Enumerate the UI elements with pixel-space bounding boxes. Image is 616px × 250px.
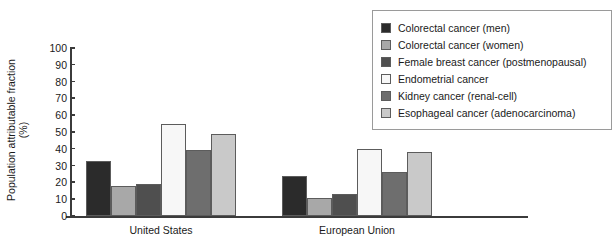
bar xyxy=(307,198,332,216)
legend-item: Female breast cancer (postmenopausal) xyxy=(381,53,607,70)
bar xyxy=(382,172,407,216)
y-tick-mark xyxy=(70,114,75,116)
legend-item: Colorectal cancer (women) xyxy=(381,36,607,53)
y-tick-label: 90 xyxy=(35,59,67,71)
y-tick-label: 30 xyxy=(35,160,67,172)
y-tick-label: 80 xyxy=(35,76,67,88)
y-tick-mark xyxy=(70,131,75,133)
y-tick-label: 70 xyxy=(35,92,67,104)
legend-item: Esophageal cancer (adenocarcinoma) xyxy=(381,104,607,121)
y-tick-mark xyxy=(70,181,75,183)
y-tick-label: 20 xyxy=(35,176,67,188)
legend-label: Colorectal cancer (women) xyxy=(398,39,523,51)
y-tick: 20 xyxy=(28,176,76,188)
x-axis-group-label: United States xyxy=(86,224,236,237)
y-tick-label: 40 xyxy=(35,143,67,155)
bar xyxy=(211,134,236,216)
y-tick: 50 xyxy=(28,126,76,138)
bar xyxy=(407,152,432,216)
y-tick-mark xyxy=(70,215,75,217)
bar xyxy=(282,176,307,216)
legend-swatch xyxy=(381,40,391,50)
y-tick: 0 xyxy=(28,210,76,222)
y-tick: 10 xyxy=(28,193,76,205)
y-tick-mark xyxy=(70,97,75,99)
legend-item: Endometrial cancer xyxy=(381,70,607,87)
bar xyxy=(161,124,186,216)
y-tick-mark xyxy=(70,165,75,167)
y-tick-mark xyxy=(70,47,75,49)
y-tick-label: 100 xyxy=(35,42,67,54)
y-tick-mark xyxy=(70,81,75,83)
legend-swatch xyxy=(381,91,391,101)
x-axis-line xyxy=(66,216,528,218)
legend-box: Colorectal cancer (men)Colorectal cancer… xyxy=(372,10,612,130)
legend-item: Kidney cancer (renal-cell) xyxy=(381,87,607,104)
y-axis-title-line1: Population attributable fraction xyxy=(5,59,17,201)
legend-label: Endometrial cancer xyxy=(398,73,488,85)
y-tick-mark xyxy=(70,198,75,200)
legend-label: Female breast cancer (postmenopausal) xyxy=(398,56,587,68)
legend-items: Colorectal cancer (men)Colorectal cancer… xyxy=(381,19,607,121)
y-tick: 70 xyxy=(28,92,76,104)
bar xyxy=(111,186,136,216)
y-tick: 80 xyxy=(28,76,76,88)
legend-label: Esophageal cancer (adenocarcinoma) xyxy=(398,107,575,119)
y-tick: 30 xyxy=(28,160,76,172)
legend-label: Colorectal cancer (men) xyxy=(398,22,510,34)
bar xyxy=(86,161,111,216)
y-tick-mark xyxy=(70,148,75,150)
y-tick-mark xyxy=(70,64,75,66)
legend-swatch xyxy=(381,74,391,84)
legend-swatch xyxy=(381,23,391,33)
bar-chart-figure: Population attributable fraction (%) 010… xyxy=(0,0,616,250)
legend-swatch xyxy=(381,57,391,67)
y-tick: 90 xyxy=(28,59,76,71)
y-tick: 60 xyxy=(28,109,76,121)
bar xyxy=(357,149,382,216)
x-axis-group-label: European Union xyxy=(282,224,432,237)
y-tick-label: 0 xyxy=(35,210,67,222)
bar xyxy=(136,184,161,216)
bar xyxy=(332,194,357,216)
y-tick-label: 60 xyxy=(35,109,67,121)
legend-swatch xyxy=(381,108,391,118)
y-tick-label: 10 xyxy=(35,193,67,205)
y-tick-label: 50 xyxy=(35,126,67,138)
y-tick: 100 xyxy=(28,42,76,54)
bar xyxy=(186,150,211,216)
legend-item: Colorectal cancer (men) xyxy=(381,19,607,36)
legend-label: Kidney cancer (renal-cell) xyxy=(398,90,517,102)
y-tick: 40 xyxy=(28,143,76,155)
